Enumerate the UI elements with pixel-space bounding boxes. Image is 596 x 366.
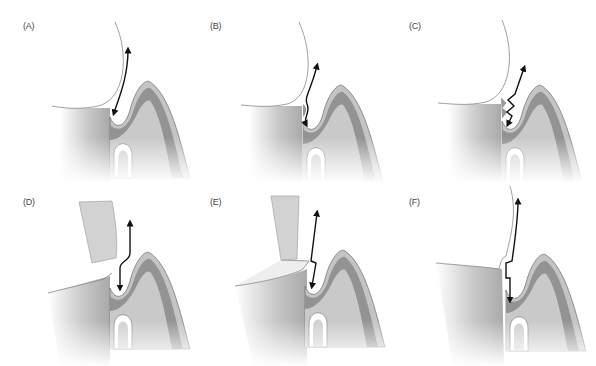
panel-d: (D) (0, 183, 198, 366)
panel-c: (C) (398, 0, 596, 183)
panel-b: (B) (199, 0, 397, 183)
panel-a: (A) (0, 0, 198, 183)
diagram-c (398, 0, 596, 183)
diagram-a (0, 0, 198, 183)
diagram-b (199, 0, 397, 183)
diagram-d (0, 183, 198, 366)
diagram-e (199, 183, 397, 366)
panel-f: (F) (398, 183, 596, 366)
diagram-f (398, 183, 596, 366)
panel-e: (E) (199, 183, 397, 366)
